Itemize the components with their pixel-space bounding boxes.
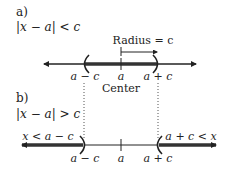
part-a-left-endpoint-label: a − c [71,70,100,83]
part-a-inequality: |x − a| < c [16,20,80,34]
radius-label: Radius = c [113,34,174,47]
absolute-value-diagram: a) |x − a| < c Radius = c a − c a a + c … [0,0,234,170]
part-b-center-label: a [118,152,125,165]
center-caption: Center [102,82,141,95]
part-a: a) |x − a| < c Radius = c a − c a a + c … [16,5,196,95]
right-region-label: a + c < x [165,130,217,143]
part-a-label: a) [16,5,28,19]
part-b: b) |x − a| > c x < a − c a + c < x a − c… [16,91,217,165]
part-b-right-endpoint-label: a + c [144,152,173,165]
part-b-label: b) [16,91,28,105]
part-b-inequality: |x − a| > c [16,107,80,121]
part-b-left-endpoint-label: a − c [71,152,100,165]
left-region-label: x < a − c [22,130,73,143]
part-a-right-endpoint-label: a + c [144,70,173,83]
